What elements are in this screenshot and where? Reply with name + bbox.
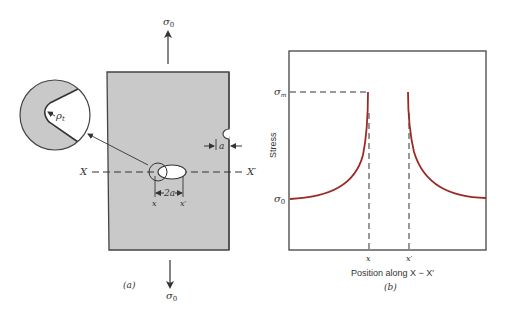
max-stress-label: σm bbox=[274, 86, 287, 98]
notch-depth-label: a bbox=[219, 141, 224, 151]
top-stress-label: σ0 bbox=[163, 16, 174, 29]
stress-curve-left bbox=[290, 92, 368, 199]
axis-left-label: X bbox=[79, 166, 88, 177]
crack-length-label: 2a bbox=[163, 188, 175, 198]
bottom-stress-label: σ0 bbox=[166, 290, 177, 303]
plate bbox=[107, 72, 229, 250]
x-axis-label: Position along X − X′ bbox=[351, 268, 434, 278]
stress-curve-right bbox=[408, 92, 486, 198]
crack-right-label: x′ bbox=[180, 199, 187, 208]
axis-right-label: X′ bbox=[246, 166, 257, 177]
plot-frame bbox=[289, 51, 486, 250]
magnified-crack-tip: ρt bbox=[20, 80, 100, 150]
figure-canvas: σ0 a X X′ 2a x x′ bbox=[0, 0, 505, 314]
panel-a: σ0 a X X′ 2a x x′ bbox=[20, 16, 257, 303]
panel-a-caption: (a) bbox=[123, 280, 136, 290]
panel-b-caption: (b) bbox=[384, 282, 397, 292]
nominal-stress-label: σ0 bbox=[274, 193, 285, 206]
x-tick-right: x′ bbox=[406, 254, 413, 263]
edge-notch bbox=[223, 129, 229, 139]
x-tick-left: x bbox=[366, 254, 371, 263]
y-axis-label: Stress bbox=[268, 132, 278, 158]
crack-left-label: x bbox=[152, 199, 157, 208]
internal-crack bbox=[158, 165, 186, 179]
panel-b: σm σ0 Stress x x′ Position along X − X′ … bbox=[268, 51, 486, 292]
